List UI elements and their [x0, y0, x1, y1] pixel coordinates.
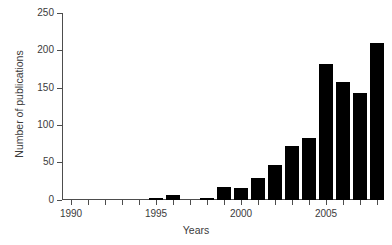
x-tick-mark — [377, 200, 378, 205]
bar — [251, 178, 265, 200]
x-tick-mark — [224, 200, 225, 205]
bar — [200, 198, 214, 199]
y-tick-mark — [57, 88, 62, 89]
bar — [319, 64, 333, 199]
bar — [234, 188, 248, 200]
y-tick-mark — [57, 200, 62, 201]
bar — [353, 93, 367, 200]
x-tick-mark — [343, 200, 344, 205]
x-tick-label: 2005 — [306, 208, 346, 219]
bar — [166, 195, 180, 199]
bar — [336, 82, 350, 200]
x-tick-mark — [326, 200, 327, 205]
x-tick-label: 2000 — [221, 208, 261, 219]
bar — [302, 138, 316, 200]
plot-area — [63, 13, 383, 200]
y-tick-mark — [57, 13, 62, 14]
x-tick-mark — [309, 200, 310, 205]
bar-chart-figure: 050100150200250 1990199520002005 Number … — [0, 0, 392, 245]
bar — [370, 43, 384, 200]
y-axis-title: Number of publications — [13, 19, 25, 189]
bar — [285, 146, 299, 200]
y-tick-mark — [57, 125, 62, 126]
x-tick-mark — [190, 200, 191, 205]
y-tick-label: 0 — [14, 195, 54, 205]
x-tick-mark — [275, 200, 276, 205]
x-tick-mark — [105, 200, 106, 205]
x-tick-mark — [139, 200, 140, 205]
x-tick-label: 1995 — [136, 208, 176, 219]
bar — [217, 187, 231, 200]
x-tick-label: 1990 — [51, 208, 91, 219]
x-axis-title: Years — [0, 224, 392, 236]
y-tick-mark — [57, 162, 62, 163]
bar — [268, 165, 282, 199]
x-tick-mark — [292, 200, 293, 205]
x-tick-mark — [122, 200, 123, 205]
x-tick-mark — [156, 200, 157, 205]
x-tick-mark — [173, 200, 174, 205]
x-tick-mark — [88, 200, 89, 205]
x-tick-mark — [241, 200, 242, 205]
y-tick-label: 250 — [14, 8, 54, 18]
x-tick-mark — [360, 200, 361, 205]
bar — [149, 198, 163, 199]
x-tick-mark — [207, 200, 208, 205]
y-tick-mark — [57, 50, 62, 51]
x-tick-mark — [258, 200, 259, 205]
x-tick-mark — [71, 200, 72, 205]
